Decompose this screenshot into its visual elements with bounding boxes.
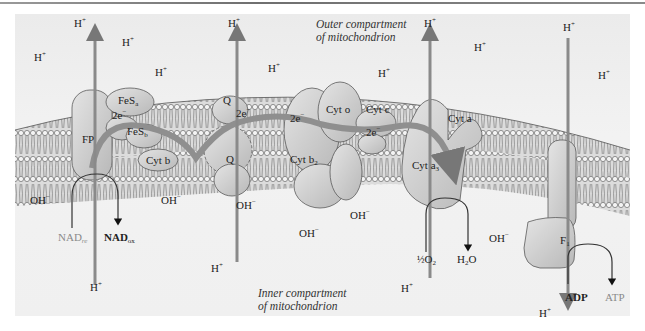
electron-pair-label: 2e− (236, 108, 250, 119)
fp-label: FP (82, 134, 94, 145)
hydroxide-label: OH− (236, 200, 256, 211)
inner-compartment-label: Inner compartment of mitochondrion (258, 287, 346, 313)
cyt-a-label: Cyt a (448, 113, 472, 124)
proton-label: H+ (424, 18, 436, 29)
proton-label: H+ (598, 70, 610, 81)
fes-a-label: FeSa (118, 95, 138, 106)
outer-compartment-label: Outer compartment of mitochondrion (316, 18, 406, 44)
inner-compartment-line1: Inner compartment (258, 287, 346, 300)
cyt-b-label: Cyt b (146, 155, 170, 166)
adp-label: ADP (565, 292, 588, 303)
water-label: H2O (457, 254, 476, 265)
proton-label: H+ (563, 22, 575, 33)
proton-label: H+ (155, 67, 167, 78)
cyt-b2-label: Cyt b2 (290, 154, 318, 165)
proton-label: H+ (268, 63, 280, 74)
hydroxide-label: OH− (350, 210, 370, 221)
cyt-c-label: Cyt c (366, 104, 390, 115)
electron-pair-label: 2e− (290, 113, 304, 124)
q-bottom-label: Q (226, 154, 234, 165)
proton-label: H+ (401, 283, 413, 294)
outer-compartment-line2: of mitochondrion (316, 31, 406, 44)
nad-oxidized-label: NADox (104, 232, 135, 243)
proton-label: H+ (378, 68, 390, 79)
proton-label: H+ (90, 282, 102, 293)
proton-label: H+ (74, 18, 86, 29)
outer-compartment-line1: Outer compartment (316, 18, 406, 31)
atp-label: ATP (605, 292, 625, 303)
proton-label: H+ (474, 42, 486, 53)
complex-iii (284, 82, 362, 208)
f1-label: F1 (560, 235, 570, 246)
cyt-o-label: Cyt o (326, 104, 350, 115)
nad-reduced-label: NADre (58, 232, 87, 243)
proton-label: H+ (122, 37, 134, 48)
proton-label: H+ (34, 52, 46, 63)
oxygen-label: ½O2 (417, 254, 436, 265)
hydroxide-label: OH− (299, 228, 319, 239)
proton-label: H+ (211, 263, 223, 274)
proton-label: H+ (228, 18, 240, 29)
electron-pair-label: 2e− (112, 110, 126, 121)
cyt-a3-label: Cyt a3 (412, 160, 439, 171)
hydroxide-label: OH− (30, 195, 50, 206)
q-top-label: Q (223, 95, 231, 106)
inner-compartment-line2: of mitochondrion (258, 300, 346, 313)
electron-pair-label: 2e− (366, 127, 380, 138)
hydroxide-label: OH− (489, 233, 509, 244)
hydroxide-label: OH− (161, 195, 181, 206)
proton-label: H+ (539, 308, 551, 319)
fes-b-label: FeSb (127, 126, 148, 137)
